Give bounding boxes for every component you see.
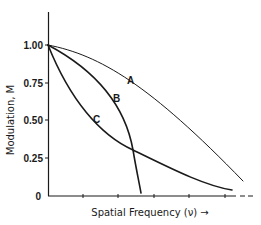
y-tick-label: 0.25 (24, 153, 44, 164)
y-tick-label: 0 (35, 191, 41, 202)
y-tick-label: 0.50 (24, 115, 44, 126)
y-axis-title: Modulation, M (5, 85, 16, 155)
curves (48, 45, 243, 193)
curve-c (48, 45, 232, 190)
x-axis-title: Spatial Frequency (ν) → (91, 207, 208, 218)
y-tick-label: 1.00 (24, 40, 44, 51)
curve-a (48, 45, 243, 181)
curve-label-b: B (113, 93, 120, 104)
curve-label-a: A (127, 75, 134, 86)
y-tick-label: 0.75 (24, 78, 44, 89)
mtf-chart: 1.00 0.75 0.50 0.25 0 Modulation, M Spat… (0, 0, 261, 225)
axes (45, 12, 256, 198)
curve-label-c: C (93, 114, 100, 125)
